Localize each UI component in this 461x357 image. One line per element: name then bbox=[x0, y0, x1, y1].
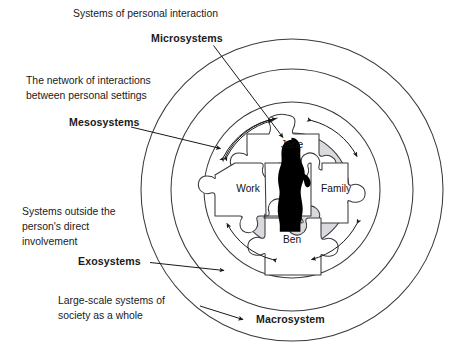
mesosystems-description-line1: The network of interactions bbox=[26, 75, 151, 86]
diagram-canvas: Systems of personal interaction Microsys… bbox=[0, 0, 461, 357]
puzzle-label-ben: Ben bbox=[283, 234, 301, 245]
leader-microsystems bbox=[214, 46, 284, 138]
mesosystems-description-line2: between personal settings bbox=[26, 90, 147, 101]
puzzle-label-family: Family bbox=[321, 183, 352, 194]
macrosystem-description-line2: society as a whole bbox=[58, 310, 143, 321]
exosystems-term: Exosystems bbox=[78, 255, 141, 267]
mesosystems-term: Mesosystems bbox=[69, 116, 140, 128]
microsystems-description: Systems of personal interaction bbox=[73, 8, 218, 19]
leader-mesosystems bbox=[131, 127, 221, 149]
leader-macrosystem bbox=[200, 306, 243, 320]
exosystems-description-line2: person's direct bbox=[22, 221, 89, 232]
macrosystem-description-line1: Large-scale systems of bbox=[58, 295, 165, 306]
macrosystem-term: Macrosystem bbox=[256, 313, 325, 325]
exosystems-description-line3: involvement bbox=[22, 236, 78, 247]
leader-exosystems bbox=[150, 263, 224, 271]
puzzle-label-work: Work bbox=[236, 183, 260, 194]
exosystems-description-line1: Systems outside the bbox=[22, 206, 116, 217]
microsystems-term: Microsystems bbox=[151, 32, 223, 44]
ecological-systems-diagram: Systems of personal interaction Microsys… bbox=[0, 0, 461, 357]
puzzle-label-jane: Jane bbox=[281, 139, 303, 150]
